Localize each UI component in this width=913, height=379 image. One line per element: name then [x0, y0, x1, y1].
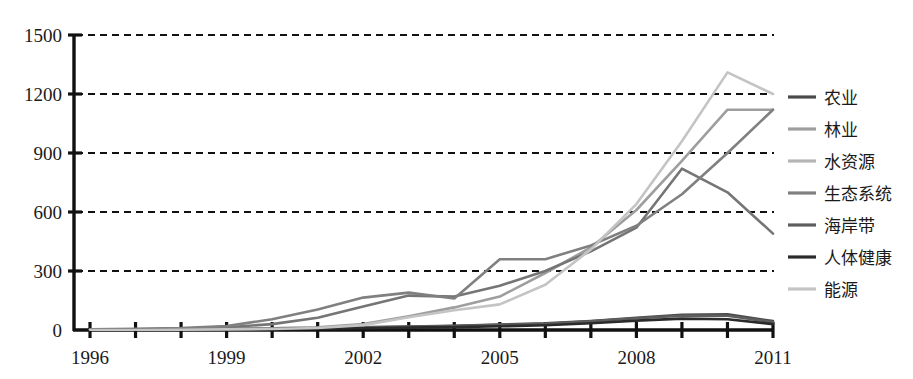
gridlines [76, 35, 774, 271]
legend-label: 人体健康 [824, 249, 892, 268]
y-axis-tick-label: 600 [34, 202, 63, 223]
y-axis-tick-label: 1500 [24, 25, 62, 46]
line-chart: 030060090012001500 199619992002200520082… [0, 0, 913, 379]
legend-label: 海岸带 [824, 217, 875, 236]
x-axis-tick-label: 1999 [208, 347, 246, 368]
x-axis-tick-label: 2002 [344, 347, 382, 368]
legend-label: 水资源 [824, 153, 875, 172]
series-line [90, 110, 773, 330]
series-line [90, 169, 773, 330]
legend-label: 林业 [824, 121, 858, 140]
axis-lines [73, 34, 774, 331]
y-axis-tick-label: 300 [34, 261, 63, 282]
x-axis-tick-label: 2008 [617, 347, 655, 368]
legend-label: 农业 [824, 89, 858, 108]
x-axis-tick-labels: 199619992002200520082011 [71, 347, 792, 368]
x-axis-tick-label: 2011 [754, 347, 791, 368]
y-axis-tick-labels: 030060090012001500 [24, 25, 62, 341]
chart-legend: 农业林业水资源生态系统海岸带人体健康能源 [788, 89, 892, 300]
y-axis-tick-label: 0 [53, 320, 63, 341]
y-axis-tick-label: 900 [34, 143, 63, 164]
x-axis-tick-label: 1996 [71, 347, 109, 368]
legend-label: 生态系统 [824, 185, 892, 204]
y-axis-tick-label: 1200 [24, 84, 62, 105]
legend-label: 能源 [824, 281, 858, 300]
series-lines [90, 72, 773, 329]
x-axis-tick-label: 2005 [481, 347, 519, 368]
chart-canvas: 030060090012001500 199619992002200520082… [0, 0, 913, 379]
